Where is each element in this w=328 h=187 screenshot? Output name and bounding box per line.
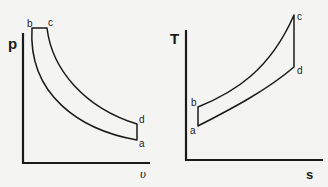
ts-x-axis-label: s [306,167,313,182]
pv-point-a-label: a [139,138,145,149]
pv-diagram: p υ b c d a [8,17,150,181]
thermodynamic-cycle-diagrams: p υ b c d a T s b a c d [0,0,328,187]
ts-point-a-label: a [190,125,196,136]
ts-point-b-label: b [191,97,197,108]
ts-point-d-label: d [297,65,303,76]
pv-point-b-label: b [27,18,33,29]
pv-point-d-label: d [139,114,145,125]
pv-point-c-label: c [48,17,53,28]
pv-cycle-path [32,28,137,140]
pv-y-axis-label: p [8,35,17,52]
ts-y-axis-label: T [170,30,179,47]
ts-point-c-label: c [297,11,302,22]
ts-diagram: T s b a c d [170,11,323,182]
pv-x-axis-label: υ [140,166,146,181]
ts-cycle-path [198,15,294,126]
